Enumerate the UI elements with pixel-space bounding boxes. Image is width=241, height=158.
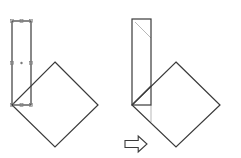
guide-line (135, 22, 151, 38)
guide-lines (135, 22, 151, 122)
right-arrow-icon (125, 136, 147, 152)
before-panel (11, 20, 99, 148)
diagram-canvas (0, 0, 241, 158)
diagonal-connector-line (132, 86, 151, 105)
after-panel (132, 19, 220, 147)
diagram-drawing (0, 0, 241, 158)
center-marker-icon (20, 62, 22, 64)
rectangle-shape[interactable] (132, 19, 151, 105)
